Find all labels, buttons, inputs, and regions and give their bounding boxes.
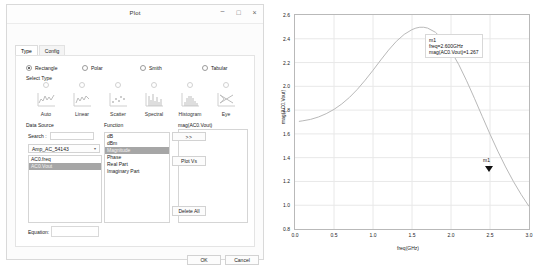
chevron-down-icon: ▾ [94, 146, 96, 151]
close-glyph: × [251, 9, 258, 17]
type-option-histogram[interactable]: Histogram [172, 82, 208, 117]
y-tick-label: 2.0 [272, 83, 290, 89]
type-option-linear[interactable]: Linear [64, 82, 100, 117]
plot-area[interactable] [294, 14, 530, 230]
radio-dot-eye [223, 82, 229, 88]
y-tick-label: 1.6 [272, 131, 290, 137]
radio-dot-smith [140, 65, 146, 71]
auto-plot-icon [35, 91, 57, 109]
x-tick-label: 1.5 [403, 232, 421, 238]
search-input[interactable] [50, 132, 94, 140]
traces-label: mag(AC0.Vout) [178, 122, 212, 128]
x-tick-label: 1.0 [364, 232, 382, 238]
radio-label-smith: Smith [149, 65, 162, 71]
radio-dot-polar [82, 65, 88, 71]
window-controls: – □ × [219, 9, 258, 17]
marker-value: mag(AC0.Vout)=1.267 [429, 49, 479, 55]
list-item[interactable]: Phase [105, 154, 169, 161]
x-tick-label: 3.0 [520, 232, 538, 238]
minimize-glyph: – [219, 9, 226, 17]
type-label-auto: Auto [41, 111, 51, 117]
list-item[interactable]: Magnitude [105, 147, 169, 154]
radio-dot-rectangle [26, 65, 32, 71]
type-label-linear: Linear [75, 111, 89, 117]
list-item[interactable]: Real Part [105, 161, 169, 168]
type-label-spectral: Spectral [145, 111, 163, 117]
radio-polar[interactable]: Polar [82, 65, 140, 71]
radio-tabular[interactable]: Tabular [202, 65, 227, 71]
y-tick-label: 2.2 [272, 60, 290, 66]
radio-rectangle[interactable]: Rectangle [26, 65, 82, 71]
radio-dot-auto [43, 82, 49, 88]
dataset-combo-value: Amp_AC_54143 [32, 146, 69, 152]
scatter-plot-icon [107, 91, 129, 109]
add-trace-button[interactable]: >> [172, 132, 206, 141]
y-tick-label: 1.8 [272, 107, 290, 113]
y-tick-label: 2.6 [272, 12, 290, 18]
type-option-scatter[interactable]: Scatter [100, 82, 136, 117]
y-tick-label: 2.4 [272, 36, 290, 42]
list-item[interactable]: AC0.Vout [29, 163, 101, 170]
data-source-list[interactable]: AC0.freq AC0.Vout [28, 155, 102, 223]
data-source-label: Data Source [26, 122, 54, 128]
plot-vs-button[interactable]: Plot Vs [172, 156, 206, 166]
dialog-footer: OK Cancel [7, 252, 263, 269]
plot-kind-radio-group: Rectangle Polar Smith Tabular [26, 65, 248, 71]
list-item[interactable]: dBm [105, 140, 169, 147]
equation-row: Equation: [28, 226, 99, 237]
select-type-label: Select Type [26, 75, 52, 81]
radio-label-rectangle: Rectangle [35, 65, 58, 71]
histogram-plot-icon [179, 91, 201, 109]
spectral-plot-icon [143, 91, 165, 109]
x-axis-label: freq(GHz) [270, 245, 546, 251]
y-tick-label: 1.4 [272, 155, 290, 161]
radio-label-polar: Polar [91, 65, 103, 71]
maximize-icon[interactable]: □ [235, 9, 242, 17]
search-label: Search : [28, 133, 47, 139]
x-tick-label: 0.0 [286, 232, 304, 238]
y-tick-label: 1.0 [272, 202, 290, 208]
maximize-glyph: □ [235, 9, 242, 17]
delete-all-button[interactable]: Delete All [172, 206, 206, 216]
type-icon-row: Auto Linear [28, 82, 248, 117]
type-label-histogram: Histogram [179, 111, 202, 117]
radio-dot-tabular [202, 65, 208, 71]
radio-smith[interactable]: Smith [140, 65, 202, 71]
x-tick-label: 2.0 [442, 232, 460, 238]
type-option-eye[interactable]: Eye [208, 82, 244, 117]
function-list[interactable]: dB dBm Magnitude Phase Real Part Imagina… [104, 132, 170, 223]
eye-diagram-icon [215, 91, 237, 109]
x-tick-label: 2.5 [481, 232, 499, 238]
ok-button[interactable]: OK [187, 255, 221, 265]
equation-input[interactable] [51, 226, 99, 237]
radio-dot-scatter [115, 82, 121, 88]
plot-viewer: mag(AC0.Vout) freq(GHz) 0.81.01.21.41.61… [270, 0, 546, 264]
close-icon[interactable]: × [251, 9, 258, 17]
type-tab-panel: Rectangle Polar Smith Tabular [15, 55, 255, 247]
minimize-icon[interactable]: – [219, 9, 226, 17]
radio-dot-histogram [187, 82, 193, 88]
dataset-combo[interactable]: Amp_AC_54143 ▾ [28, 144, 100, 153]
dialog-titlebar[interactable]: Plot – □ × [7, 5, 263, 24]
list-item[interactable]: AC0.freq [29, 156, 101, 163]
linear-plot-icon [71, 91, 93, 109]
marker-annotation-m1: m1 freq=2.600GHz mag(AC0.Vout)=1.267 [425, 34, 483, 58]
search-row: Search : [28, 132, 94, 140]
type-option-spectral[interactable]: Spectral [136, 82, 172, 117]
list-item[interactable]: Imaginary Part [105, 168, 169, 175]
cancel-button[interactable]: Cancel [225, 255, 259, 265]
type-option-auto[interactable]: Auto [28, 82, 64, 117]
trace-canvas [295, 15, 529, 229]
marker-triangle-icon[interactable] [485, 166, 493, 172]
marker-inline-label: m1 [483, 157, 490, 163]
list-item[interactable]: dB [105, 133, 169, 140]
radio-dot-linear [79, 82, 85, 88]
type-label-eye: Eye [222, 111, 231, 117]
radio-dot-spectral [151, 82, 157, 88]
plot-dialog: Plot – □ × Type Config [6, 4, 264, 260]
x-tick-label: 0.5 [325, 232, 343, 238]
type-label-scatter: Scatter [110, 111, 126, 117]
equation-label: Equation: [28, 229, 49, 235]
y-tick-label: 1.2 [272, 178, 290, 184]
